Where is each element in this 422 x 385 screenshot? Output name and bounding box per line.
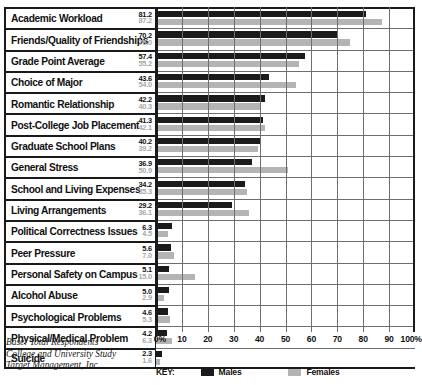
row-label-cell: Peer Pressure5.67.0 (4, 241, 156, 262)
bar-females (156, 210, 249, 216)
bar-males (156, 159, 252, 165)
chart-row: Graduate School Plans40.239.2 (4, 135, 415, 156)
bar-males (156, 11, 366, 17)
row-label-cell: Academic Workload81.287.2 (4, 7, 156, 28)
source-line-1: Base: Total Respondents (6, 337, 116, 349)
row-value-females: 5.3 (142, 317, 152, 324)
source-line-3: Target Management, Inc. (6, 360, 116, 372)
row-label-cell: Personal Safety on Campus5.115.0 (4, 263, 156, 284)
row-label-cell: Political Correctness Issues6.34.5 (4, 220, 156, 241)
row-label: Romantic Relationship (11, 99, 114, 110)
chart-row: Romantic Relationship42.240.3 (4, 92, 415, 113)
row-plot-cell (156, 50, 415, 71)
row-label: Alcohol Abuse (11, 290, 78, 301)
chart-row: Political Correctness Issues6.34.5 (4, 220, 415, 241)
source-note: Base: Total Respondents College and Univ… (6, 337, 116, 372)
row-values: 4.65.3 (142, 310, 152, 324)
legend-label-females: Females (306, 367, 339, 377)
bar-females (156, 316, 170, 322)
bar-females (156, 61, 299, 67)
bar-males (156, 266, 169, 272)
chart-row: Living Arrangements29.236.1 (4, 199, 415, 220)
row-label: Choice of Major (11, 77, 82, 88)
row-label: General Stress (11, 162, 78, 173)
row-label-cell: Grade Point Average57.455.2 (4, 50, 156, 71)
row-label: Friends/Quality of Friendships (11, 35, 148, 46)
row-plot-cell (156, 199, 415, 220)
row-label: Graduate School Plans (11, 141, 115, 152)
chart-row: Grade Point Average57.455.2 (4, 50, 415, 71)
bar-males (156, 95, 265, 101)
row-plot-cell (156, 305, 415, 326)
bar-males (156, 117, 263, 123)
row-value-females: 54.0 (138, 83, 152, 90)
row-label-cell: General Stress36.950.9 (4, 156, 156, 177)
row-label-cell: Living Arrangements29.236.1 (4, 199, 156, 220)
row-value-females: 75.0 (138, 40, 152, 47)
bar-females (156, 274, 195, 280)
bar-males (156, 223, 172, 229)
row-values: 34.235.3 (138, 182, 152, 196)
row-values: 43.654.0 (138, 76, 152, 90)
bar-females (156, 252, 174, 258)
row-label-cell: Psychological Problems4.65.3 (4, 305, 156, 326)
axis-tick-label: 50 (281, 334, 290, 344)
row-value-females: 35.3 (138, 189, 152, 196)
row-values: 41.342.1 (138, 118, 152, 132)
axis-tick-label: 40 (255, 334, 264, 344)
row-values: 5.115.0 (138, 267, 152, 281)
legend-item-females: Females (288, 367, 339, 377)
bar-females (156, 231, 168, 237)
row-label: Political Correctness Issues (11, 226, 137, 237)
axis-tick-label: 90 (385, 334, 394, 344)
row-value-females: 7.0 (142, 253, 152, 260)
row-value-females: 15.0 (138, 274, 152, 281)
row-value-females: 1.6 (142, 358, 152, 365)
bar-females (156, 167, 288, 173)
axis-tick-label: 70 (333, 334, 342, 344)
row-label-cell: Graduate School Plans40.239.2 (4, 135, 156, 156)
legend-swatch-males-icon (201, 369, 214, 376)
row-value-females: 87.2 (138, 19, 152, 26)
x-axis: 0%102030405060708090100% (156, 334, 415, 348)
bar-females (156, 82, 296, 88)
row-values: 36.950.9 (138, 161, 152, 175)
row-plot-cell (156, 7, 415, 28)
row-values: 6.34.5 (142, 225, 152, 239)
chart-row: Personal Safety on Campus5.115.0 (4, 263, 415, 284)
row-label-cell: School and Living Expenses34.235.3 (4, 177, 156, 198)
row-values: 70.275.0 (138, 33, 152, 47)
row-value-females: 50.9 (138, 168, 152, 175)
legend-label-males: Males (219, 367, 242, 377)
row-label-cell: Post-College Job Placement41.342.1 (4, 113, 156, 134)
bar-males (156, 351, 162, 357)
legend-item-males: Males (201, 367, 242, 377)
row-values: 5.67.0 (142, 246, 152, 260)
row-plot-cell (156, 220, 415, 241)
row-plot-cell (156, 113, 415, 134)
bar-males (156, 138, 260, 144)
row-plot-cell (156, 241, 415, 262)
chart-row: Peer Pressure5.67.0 (4, 241, 415, 262)
row-value-females: 40.3 (138, 104, 152, 111)
chart-row: Alcohol Abuse5.02.9 (4, 284, 415, 305)
row-label-cell: Romantic Relationship42.240.3 (4, 92, 156, 113)
bar-females (156, 39, 350, 45)
row-plot-cell (156, 135, 415, 156)
axis-tick-label: 0% (154, 334, 166, 344)
axis-tick-label: 100% (401, 334, 422, 344)
row-value-females: 39.2 (138, 146, 152, 153)
bar-males (156, 244, 171, 250)
bar-males (156, 308, 168, 314)
bar-females (156, 19, 382, 25)
row-values: 57.455.2 (138, 54, 152, 68)
axis-tick-label: 30 (229, 334, 238, 344)
chart-row: General Stress36.950.9 (4, 156, 415, 177)
row-label: Living Arrangements (11, 205, 106, 216)
row-values: 40.239.2 (138, 140, 152, 154)
bar-females (156, 125, 265, 131)
chart-row: Psychological Problems4.65.3 (4, 305, 415, 326)
row-label: Personal Safety on Campus (11, 269, 137, 280)
legend-swatch-females-icon (288, 369, 301, 376)
axis-tick-label: 80 (359, 334, 368, 344)
